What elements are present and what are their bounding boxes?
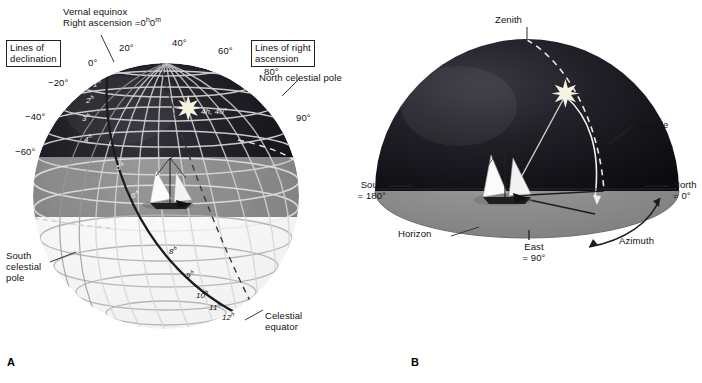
declination-label-minus-20: −20° xyxy=(48,77,68,88)
ra-label-11h: 11h xyxy=(209,303,221,312)
ra-label-8h: 8h xyxy=(169,247,177,256)
astronomy-figure: Lines of declination Lines of right asce… xyxy=(0,0,702,383)
ra-label-7h: 7h xyxy=(148,219,156,228)
declination-label-40: 40° xyxy=(172,37,187,48)
ra-label-9h: 9h xyxy=(186,271,194,280)
north-label: North= 0° xyxy=(673,179,697,201)
panel-b-dome-graphic xyxy=(351,0,702,383)
east-label: East= 90° xyxy=(512,241,556,263)
celestial-equator-label: Celestial equator xyxy=(265,310,302,332)
ra-label-4h: 4h xyxy=(84,135,92,144)
south-celestial-pole-label: South celestial pole xyxy=(6,250,41,283)
panel-a-equatorial-coordinates: Lines of declination Lines of right asce… xyxy=(0,0,351,383)
south-label: South= 180° xyxy=(331,179,386,201)
declination-label-minus-40: −40° xyxy=(25,111,45,122)
lines-of-right-ascension-box: Lines of right ascension xyxy=(251,40,315,67)
vernal-equinox-line1: Vernal equinox xyxy=(63,6,127,17)
vernal-equinox-line2: Right ascension =0h0m xyxy=(63,17,161,28)
declination-label-0: 0° xyxy=(88,57,97,68)
panel-b-horizon-coordinates: Zenith Altitude Azimuth Horizon South= 1… xyxy=(351,0,702,383)
declination-label-20: 20° xyxy=(119,42,134,53)
ra-label-6h: 6h xyxy=(131,191,139,200)
ra-label-12h: 12h xyxy=(222,313,234,322)
vernal-equinox-callout: Vernal equinox Right ascension =0h0m xyxy=(63,6,161,28)
zenith-label: Zenith xyxy=(495,14,522,25)
declination-label-60: 60° xyxy=(218,45,233,56)
north-celestial-pole-label: North celestial pole xyxy=(259,72,342,83)
azimuth-label: Azimuth xyxy=(619,235,654,246)
altitude-label: Altitude xyxy=(636,119,669,130)
declination-label-minus-60: −60° xyxy=(15,146,35,157)
ra-label-1h: 1h xyxy=(93,80,101,89)
declination-label-90: 90° xyxy=(296,112,311,123)
star-coordinate-label: 4h, 40° xyxy=(201,107,227,116)
ra-label-3h: 3h xyxy=(82,114,90,123)
dome-highlight xyxy=(401,66,517,146)
ra-label-10h: 10h xyxy=(196,291,208,300)
panel-letter-b: B xyxy=(411,356,419,368)
horizon-label: Horizon xyxy=(398,228,431,239)
panel-letter-a: A xyxy=(7,356,15,368)
ra-label-2h: 2h xyxy=(86,96,94,105)
ra-label-5h: 5h xyxy=(116,163,124,172)
lines-of-declination-box: Lines of declination xyxy=(6,40,61,67)
